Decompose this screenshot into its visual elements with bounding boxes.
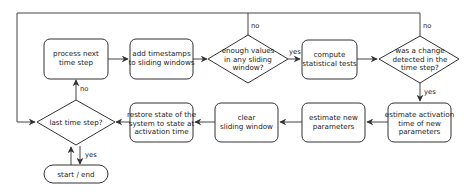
svg-text:activation time: activation time: [134, 127, 189, 136]
label-change-yes: yes: [424, 88, 436, 96]
label-last-no: no: [80, 85, 88, 93]
flowchart: no yes yes no no yes process next time s…: [0, 0, 474, 196]
svg-text:add timestamps: add timestamps: [132, 49, 191, 58]
node-process-next-time-step: process next time step: [44, 39, 108, 79]
svg-text:start / end: start / end: [57, 170, 94, 179]
svg-text:window?: window?: [232, 63, 263, 72]
node-start-end: start / end: [44, 165, 108, 183]
svg-text:last time step?: last time step?: [49, 118, 102, 127]
label-change-no: no: [423, 22, 431, 30]
node-change-detected-decision: was a change detected in the time step?: [379, 36, 459, 83]
svg-text:time step: time step: [59, 58, 94, 67]
node-clear-sliding-window: clear sliding window: [215, 103, 278, 142]
svg-text:parameters: parameters: [313, 122, 355, 131]
label-enough-no: no: [251, 22, 259, 30]
node-estimate-activation-time: estimate activation time of new paramete…: [385, 103, 455, 142]
label-enough-yes: yes: [289, 48, 301, 56]
svg-text:statistical tests: statistical tests: [302, 59, 357, 68]
node-compute-statistical-tests: compute statistical tests: [302, 40, 357, 79]
svg-text:sliding window: sliding window: [220, 122, 273, 131]
node-add-timestamps: add timestamps to sliding windows: [128, 39, 194, 79]
node-last-time-step-decision: last time step?: [37, 100, 115, 145]
node-estimate-new-parameters: estimate new parameters: [302, 103, 365, 142]
node-restore-state: restore state of the system to state at …: [127, 103, 197, 142]
svg-text:to sliding windows: to sliding windows: [128, 58, 194, 67]
label-last-yes: yes: [85, 151, 97, 159]
node-enough-values-decision: enough values in any sliding window?: [208, 35, 288, 83]
svg-text:time step?: time step?: [401, 63, 439, 72]
svg-text:process next: process next: [53, 49, 99, 58]
svg-text:parameters: parameters: [399, 127, 441, 136]
